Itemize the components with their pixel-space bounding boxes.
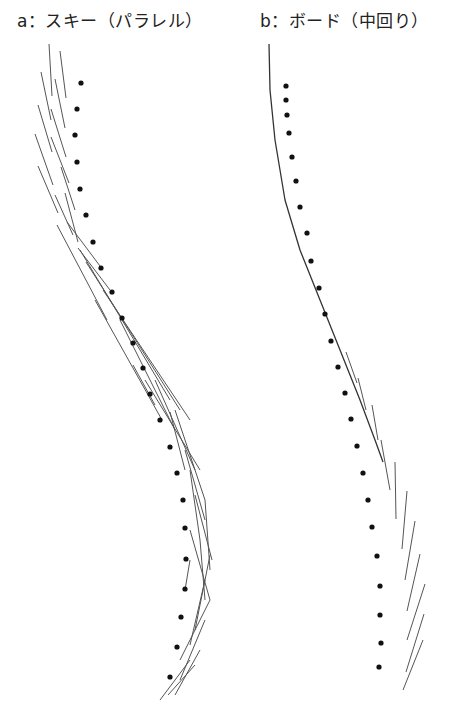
track-dot: [147, 391, 152, 396]
board-track-line: [407, 584, 425, 640]
track-dot: [360, 470, 365, 475]
track-dot: [283, 83, 288, 88]
track-dot: [378, 640, 383, 645]
track-dot: [77, 186, 82, 191]
track-dot: [130, 340, 135, 345]
track-dot: [365, 497, 370, 502]
ski-track-line: [195, 495, 212, 560]
ski-track-line: [86, 262, 180, 410]
ski-track-line: [180, 600, 210, 660]
track-dot: [157, 417, 162, 422]
board-track-line: [381, 440, 390, 490]
board-track-curve: [269, 44, 383, 462]
track-dot: [286, 130, 291, 135]
track-dot: [374, 553, 379, 558]
ski-track-line: [41, 72, 51, 120]
board-track-line: [395, 462, 396, 519]
ski-track-line: [95, 300, 162, 420]
ski-track-line: [80, 250, 170, 400]
track-dot: [109, 289, 114, 294]
track-dot: [140, 365, 145, 370]
track-dot: [376, 664, 381, 669]
ski-track-line: [185, 450, 205, 520]
ski-track-line: [57, 225, 107, 320]
track-dot: [98, 265, 103, 270]
track-dot: [377, 583, 382, 588]
ski-track-line: [60, 51, 66, 98]
board-track-line: [407, 554, 420, 611]
track-dot: [182, 586, 187, 591]
track-dot: [78, 80, 83, 85]
ski-track-line: [120, 320, 175, 430]
track-dot: [308, 258, 313, 263]
ski-track-line: [175, 410, 205, 500]
track-dot: [342, 390, 347, 395]
ski-track-line: [185, 560, 190, 590]
track-dot: [178, 614, 183, 619]
track-dot: [354, 443, 359, 448]
track-dot: [293, 178, 298, 183]
ski-track-line: [133, 365, 155, 405]
track-dot: [167, 444, 172, 449]
track-dot: [297, 204, 302, 209]
track-dot: [74, 106, 79, 111]
ski-track-line: [180, 620, 205, 680]
ski-track-line: [51, 137, 69, 183]
ski-track-line: [67, 222, 100, 266]
track-dot: [316, 285, 321, 290]
ski-track-line: [38, 105, 52, 152]
track-dot: [328, 338, 333, 343]
track-dot: [72, 132, 77, 137]
track-dot: [335, 364, 340, 369]
ski-track-line: [55, 79, 65, 128]
board-track-line: [403, 640, 423, 690]
track-dot: [183, 556, 188, 561]
track-dot: [369, 524, 374, 529]
board-track-line: [402, 491, 407, 549]
ski-track-line: [155, 380, 195, 470]
ski-track-line: [168, 665, 195, 695]
track-dot: [174, 644, 179, 649]
track-dot: [283, 97, 288, 102]
track-dot: [304, 230, 309, 235]
track-dot: [348, 416, 353, 421]
track-diagram: [0, 0, 451, 713]
track-dot: [90, 239, 95, 244]
track-dot: [119, 315, 124, 320]
ski-track-line: [35, 134, 53, 185]
ski-track-line: [103, 290, 190, 420]
track-dot: [180, 497, 185, 502]
ski-track-line: [55, 195, 73, 235]
ski-track-line: [51, 109, 66, 157]
track-dot: [74, 159, 79, 164]
ski-track-line: [175, 650, 200, 695]
track-dot: [289, 154, 294, 159]
ski-track-line: [38, 166, 58, 213]
track-dot: [284, 112, 289, 117]
track-dot: [182, 525, 187, 530]
track-dot: [322, 311, 327, 316]
panel-b-board-medium-turn: [269, 44, 425, 690]
track-dot: [377, 612, 382, 617]
panel-a-ski-parallel: [35, 44, 212, 700]
track-dot: [174, 470, 179, 475]
board-track-line: [405, 521, 415, 580]
ski-track-line: [49, 44, 52, 96]
track-dot: [83, 212, 88, 217]
track-dot: [167, 674, 172, 679]
